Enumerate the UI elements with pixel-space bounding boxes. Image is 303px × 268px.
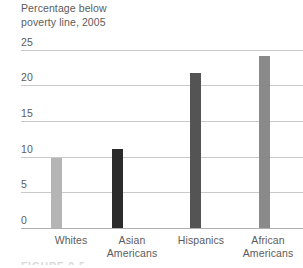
y-tick-label-10: 10 — [21, 144, 33, 155]
bar-hispanics — [190, 73, 201, 228]
x-tick-label-asian-americans: Asian Americans — [96, 234, 168, 260]
y-tick-label-0: 0 — [21, 215, 27, 226]
x-axis-line — [21, 228, 303, 229]
bar-asian-americans — [112, 149, 123, 228]
y-tick-label-20: 20 — [21, 72, 33, 83]
figure-caption-sliver: FIGURE 9.5 — [21, 262, 131, 265]
gridline-25 — [21, 50, 303, 51]
poverty-rate-bar-chart: Percentage below poverty line, 2005 25 2… — [0, 0, 303, 268]
y-tick-label-15: 15 — [21, 108, 33, 119]
x-tick-label-hispanics: Hispanics — [163, 234, 239, 247]
x-tick-label-african-americans: African Americans — [232, 234, 303, 260]
plot-area: 25 20 15 10 5 0 Whites Asian Americans H… — [0, 0, 303, 268]
bar-african-americans — [259, 56, 270, 228]
y-tick-label-25: 25 — [21, 37, 33, 48]
bar-whites — [51, 158, 62, 228]
y-tick-label-5: 5 — [21, 179, 27, 190]
